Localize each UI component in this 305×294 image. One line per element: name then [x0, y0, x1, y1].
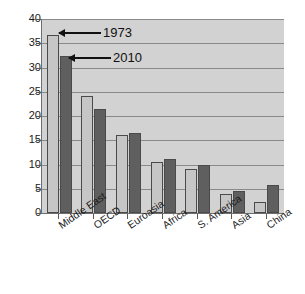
y-tick-mark — [36, 213, 41, 214]
y-tick-mark — [36, 43, 41, 44]
bar-group — [151, 19, 176, 213]
y-tick-mark — [36, 116, 41, 117]
annotation-arrow-2010 — [69, 57, 111, 59]
y-tick-mark — [36, 165, 41, 166]
plot-area — [41, 19, 284, 214]
y-tick-mark — [36, 19, 41, 20]
x-axis-label: S. America — [195, 221, 202, 231]
bar-group — [47, 19, 72, 213]
bar-group — [81, 19, 106, 213]
bar-group — [116, 19, 141, 213]
bar-series-1973 — [254, 202, 266, 213]
x-axis-label: OECD — [91, 221, 98, 231]
bar-series-2010 — [267, 185, 279, 213]
bar-series-2010 — [60, 56, 72, 213]
x-axis-label: China — [264, 221, 271, 231]
y-axis: 0510152025303540 — [0, 0, 41, 294]
bar-series-2010 — [129, 133, 141, 213]
bar-group — [254, 19, 279, 213]
annotation-label-1973: 1973 — [103, 25, 132, 40]
y-tick-mark — [36, 92, 41, 93]
x-axis-label: Asia — [229, 221, 236, 231]
x-axis-label: Euroasia — [125, 221, 132, 231]
bar-series-1973 — [185, 169, 197, 213]
annotation-arrow-1973 — [59, 32, 101, 34]
bar-series-2010 — [164, 159, 176, 213]
bar-series-2010 — [198, 165, 210, 214]
y-tick-mark — [36, 140, 41, 141]
y-tick-mark — [36, 68, 41, 69]
bar-series-1973 — [47, 35, 59, 213]
annotation-label-2010: 2010 — [113, 50, 142, 65]
bar-chart: 0510152025303540 1973 2010 Middle EastOE… — [0, 0, 305, 294]
bar-group — [185, 19, 210, 213]
bar-series-1973 — [116, 135, 128, 213]
bar-group — [220, 19, 245, 213]
x-axis-label: Middle East — [56, 221, 63, 231]
x-axis-label: Africa — [160, 221, 167, 231]
y-tick-mark — [36, 189, 41, 190]
